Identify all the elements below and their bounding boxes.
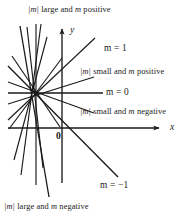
y-axis-label: y [70,25,74,35]
origin-label: 0 [56,131,61,141]
line-shallow-positive [8,77,94,104]
caption-middle-negative: |m| small and m negative [80,108,166,116]
caption-bottom: |m| large and m negative [4,203,89,211]
equation-slope-one: m = 1 [104,44,127,53]
equation-slope-negative-one: m = −1 [100,181,128,190]
pencil-intersection-point [34,91,38,95]
line-steep-negative-a [20,26,49,197]
caption-top: |m| large and m positive [28,6,111,14]
caption-middle-positive: |m| small and m positive [80,68,164,76]
equation-slope-zero: m = 0 [106,88,129,97]
x-axis-label: x [170,122,174,132]
slope-diagram-figure: |m| large and m positive |m| small and m… [0,0,185,217]
